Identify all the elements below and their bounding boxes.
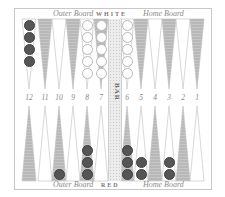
black-checker[interactable] <box>24 20 35 31</box>
top-point-9[interactable] <box>66 19 80 89</box>
white-checker[interactable] <box>82 20 93 31</box>
bottom-point-7[interactable] <box>94 106 108 181</box>
black-checker[interactable] <box>82 157 93 168</box>
black-checker[interactable] <box>122 157 133 168</box>
bottom-point-2[interactable] <box>176 106 190 181</box>
black-checker[interactable] <box>136 169 147 180</box>
black-checker[interactable] <box>122 145 133 156</box>
point-number-5: 5 <box>134 93 148 102</box>
bottom-player-label: RED <box>101 182 120 188</box>
white-checker[interactable] <box>96 44 107 55</box>
bottom-left-outer-board-label: Outer Board <box>53 180 93 189</box>
white-checker[interactable] <box>122 68 133 79</box>
point-number-3: 3 <box>162 93 176 102</box>
top-point-5[interactable] <box>134 19 148 89</box>
white-checker[interactable] <box>82 44 93 55</box>
white-checker[interactable] <box>122 20 133 31</box>
black-checker[interactable] <box>122 169 133 180</box>
black-checker[interactable] <box>136 157 147 168</box>
top-point-10[interactable] <box>52 19 66 89</box>
white-checker[interactable] <box>96 20 107 31</box>
top-point-1[interactable] <box>190 19 204 89</box>
point-number-12: 12 <box>22 93 36 102</box>
white-checker[interactable] <box>96 68 107 79</box>
point-number-2: 2 <box>176 93 190 102</box>
top-point-3[interactable] <box>162 19 176 89</box>
bottom-point-12[interactable] <box>22 106 36 181</box>
black-checker[interactable] <box>82 145 93 156</box>
backgammon-board: Outer Board WHITE Home Board BAR 1211109… <box>14 8 212 190</box>
black-checker[interactable] <box>164 169 175 180</box>
black-checker[interactable] <box>54 169 65 180</box>
point-number-7: 7 <box>94 93 108 102</box>
point-number-11: 11 <box>38 93 52 102</box>
top-point-4[interactable] <box>148 19 162 89</box>
bottom-point-9[interactable] <box>66 106 80 181</box>
black-checker[interactable] <box>24 44 35 55</box>
white-checker[interactable] <box>82 32 93 43</box>
point-number-4: 4 <box>148 93 162 102</box>
white-checker[interactable] <box>82 68 93 79</box>
bottom-point-11[interactable] <box>38 106 52 181</box>
white-checker[interactable] <box>122 56 133 67</box>
point-number-6: 6 <box>120 93 134 102</box>
bottom-right-home-board-label: Home Board <box>143 180 184 189</box>
black-checker[interactable] <box>164 157 175 168</box>
point-number-8: 8 <box>80 93 94 102</box>
black-checker[interactable] <box>24 32 35 43</box>
point-number-9: 9 <box>66 93 80 102</box>
white-checker[interactable] <box>122 44 133 55</box>
bottom-point-4[interactable] <box>148 106 162 181</box>
white-checker[interactable] <box>96 32 107 43</box>
black-checker[interactable] <box>24 56 35 67</box>
point-number-10: 10 <box>52 93 66 102</box>
white-checker[interactable] <box>96 56 107 67</box>
white-checker[interactable] <box>122 32 133 43</box>
bottom-point-1[interactable] <box>190 106 204 181</box>
top-point-2[interactable] <box>176 19 190 89</box>
top-point-11[interactable] <box>38 19 52 89</box>
point-number-1: 1 <box>190 93 204 102</box>
black-checker[interactable] <box>82 169 93 180</box>
white-checker[interactable] <box>82 56 93 67</box>
